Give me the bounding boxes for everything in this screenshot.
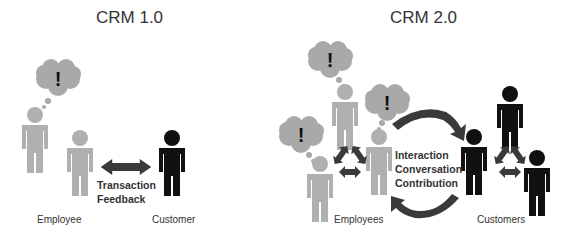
person-icon: [332, 84, 358, 150]
person-icon: [307, 156, 333, 222]
person-icon: [461, 129, 487, 195]
transaction-label: Transaction Feedback: [97, 178, 156, 206]
exclamation-icon: !: [298, 124, 305, 146]
exclamation-icon: !: [327, 49, 334, 71]
employee-label: Employee: [37, 214, 81, 225]
person-icon: [67, 130, 93, 196]
person-icon: [524, 150, 550, 216]
customer-label: Customer: [152, 214, 195, 225]
customers-label: Customers: [477, 214, 525, 225]
exclamation-icon: !: [384, 92, 391, 114]
curved-arrow-icon: [391, 194, 459, 218]
interaction-label: Interaction Conversation Contribution: [395, 148, 462, 190]
person-icon: [159, 130, 185, 196]
crm2-title: CRM 2.0: [390, 8, 457, 28]
crm-diagram: ! ! ! !: [0, 0, 568, 239]
cycle-arrows-icon: [491, 143, 529, 178]
double-arrow-icon: [101, 159, 152, 175]
crm1-title: CRM 1.0: [96, 8, 163, 28]
person-icon: [22, 107, 48, 173]
person-icon: [366, 129, 392, 195]
person-icon: [497, 86, 523, 152]
curved-arrow-icon: [392, 109, 466, 141]
employees-label: Employees: [334, 214, 383, 225]
exclamation-icon: !: [55, 68, 62, 90]
